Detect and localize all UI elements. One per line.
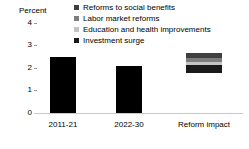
y-tick-label-4: 4	[18, 19, 32, 27]
legend-item-education-and-health-improvements: Education and health improvements	[74, 24, 211, 35]
legend-swatch-icon	[74, 16, 79, 21]
bar-2022-30	[116, 66, 142, 113]
x-tick-label-2011-21: 2011-21	[38, 120, 88, 129]
legend: Reforms to social benefits Labor market …	[74, 2, 211, 46]
legend-item-investment-surge: Investment surge	[74, 35, 211, 46]
y-tick-label-2: 2	[18, 64, 32, 72]
legend-item-label: Reforms to social benefits	[83, 3, 175, 12]
y-tick-mark-1	[34, 90, 37, 91]
legend-swatch-icon	[74, 5, 79, 10]
bar-chart: Percent 4 3 2 1 0 2011-21 2022-30 Reform…	[0, 0, 249, 149]
legend-item-label: Investment surge	[83, 36, 144, 45]
x-tick-label-reform-impact: Reform impact	[170, 120, 238, 129]
legend-item-label: Labor market reforms	[83, 14, 159, 23]
stack-segment-investment-surge	[186, 65, 222, 73]
legend-swatch-icon	[74, 38, 79, 43]
bar-2011-21	[50, 57, 76, 113]
legend-swatch-icon	[74, 27, 79, 32]
y-tick-label-1: 1	[18, 86, 32, 94]
y-tick-label-3: 3	[18, 41, 32, 49]
legend-item-reforms-to-social-benefits: Reforms to social benefits	[74, 2, 211, 13]
y-tick-mark-2	[34, 68, 37, 69]
y-axis-title: Percent	[19, 6, 47, 15]
y-tick-mark-3	[34, 45, 37, 46]
y-tick-label-0: 0	[18, 109, 32, 117]
x-axis-line	[34, 113, 243, 114]
legend-item-labor-market-reforms: Labor market reforms	[74, 13, 211, 24]
y-tick-mark-4	[34, 23, 37, 24]
legend-item-label: Education and health improvements	[83, 25, 211, 34]
x-tick-label-2022-30: 2022-30	[104, 120, 154, 129]
